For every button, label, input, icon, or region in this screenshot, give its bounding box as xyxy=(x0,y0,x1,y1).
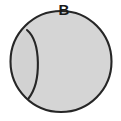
region-label-b: B xyxy=(59,1,70,18)
circle-diagram-svg: B xyxy=(0,0,121,121)
figure-container: B xyxy=(0,0,121,121)
